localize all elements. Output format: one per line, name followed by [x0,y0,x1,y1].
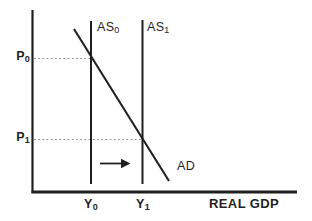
p1-label-base: P [16,130,25,144]
p0-tick-label: P0 [6,49,30,64]
p1-tick-label: P1 [6,130,30,145]
y1-tick-label: Y1 [134,197,152,212]
as1-curve-label: AS1 [147,20,170,35]
ad-curve-label: AD [177,159,195,173]
y0-label-base: Y [84,197,93,211]
ad-curve [74,29,169,181]
as0-label-base: AS [97,20,114,34]
as-ad-diagram: P0 P1 AS0 AS1 AD Y0 Y1 REAL GDP [0,0,312,221]
as0-label-subscript: 0 [114,25,119,35]
p0-label-base: P [16,49,25,63]
y0-tick-label: Y0 [82,197,100,212]
as1-label-subscript: 1 [164,25,169,35]
as0-curve-label: AS0 [97,20,120,35]
y0-label-subscript: 0 [93,202,98,212]
as1-label-base: AS [147,20,164,34]
p1-label-subscript: 1 [25,135,30,145]
y1-label-subscript: 1 [145,202,150,212]
p0-label-subscript: 0 [25,54,30,64]
y1-label-base: Y [136,197,145,211]
right-arrow-icon [100,159,131,168]
x-axis-title: REAL GDP [209,197,279,211]
